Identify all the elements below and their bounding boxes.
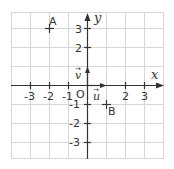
y-tick-label: -3 [69,136,80,149]
vector-u-label: u → [93,86,100,103]
x-axis-label: x [151,67,159,82]
point-B-label: B [108,105,116,118]
point-A-label: A [49,15,57,28]
x-tick-label: -3 [24,90,35,103]
vector-v-label: v → [75,65,82,82]
coordinate-plane: x y O -3 -2 -1 2 3 3 2 -1 -2 -3 u → v → … [0,0,174,169]
y-tick-label: -1 [69,98,80,111]
y-tick-label: 2 [75,42,82,55]
vector-v [85,67,90,86]
x-tick-label: 3 [141,90,148,103]
arrow-over-icon: → [93,86,99,94]
x-tick-label: -2 [43,90,54,103]
y-tick-label: -2 [69,117,80,130]
y-axis-label: y [93,10,102,25]
arrow-over-icon: → [75,65,81,73]
x-tick-label: 2 [122,90,129,103]
y-tick-label: 3 [75,23,82,36]
